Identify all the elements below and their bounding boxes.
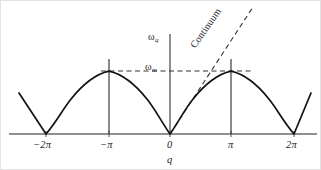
omega-m-subscript: m (152, 66, 157, 74)
omega-m-label: ωm (145, 62, 157, 74)
omega-q-symbol: ω (148, 31, 155, 42)
x-tick-label-2pi: 2π (286, 140, 297, 151)
x-tick-label-zero: 0 (167, 140, 172, 151)
x-axis-title: q (167, 155, 172, 166)
phonon-dispersion-figure: ωq ωm Continuum −2π −π 0 π 2π q (0, 0, 321, 170)
omega-m-symbol: ω (145, 61, 152, 72)
x-tick-label-neg-pi: −π (100, 140, 113, 151)
omega-q-label: ωq (148, 32, 158, 44)
dispersion-curve (19, 71, 311, 134)
x-tick-label-pi: π (228, 140, 233, 151)
omega-q-subscript: q (155, 36, 159, 44)
x-tick-label-neg-2pi: −2π (33, 140, 51, 151)
